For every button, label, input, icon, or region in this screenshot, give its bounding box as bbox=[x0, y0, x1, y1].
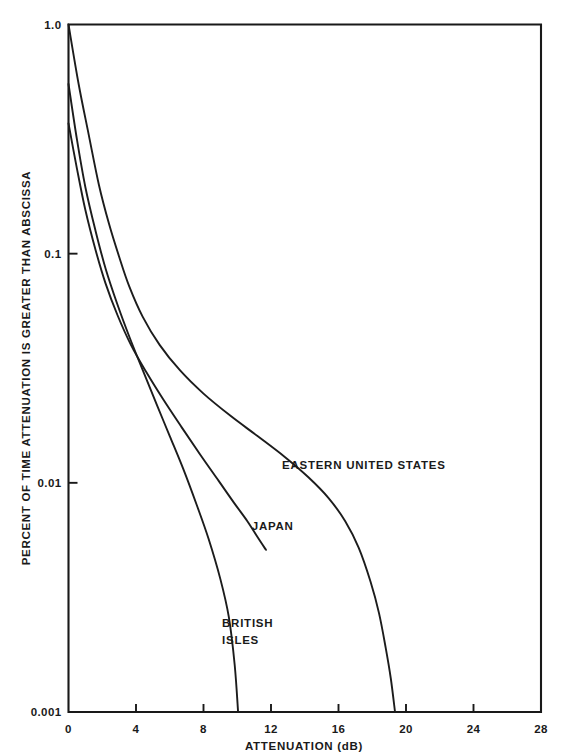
y-axis-title: PERCENT OF TIME ATTENUATION IS GREATER T… bbox=[20, 171, 32, 566]
x-tick-label: 0 bbox=[65, 723, 72, 735]
chart-figure: 0481216202428 1.00.10.010.001 EASTERN UN… bbox=[0, 0, 575, 756]
x-tick-label: 8 bbox=[200, 723, 207, 735]
x-tick-label: 12 bbox=[264, 723, 278, 735]
y-tick-label: 0.1 bbox=[44, 248, 61, 260]
x-tick-label: 24 bbox=[467, 723, 481, 735]
series-label-japan: JAPAN bbox=[252, 520, 294, 532]
attenuation-distribution-chart: 0481216202428 1.00.10.010.001 EASTERN UN… bbox=[0, 0, 575, 756]
y-tick-label: 1.0 bbox=[44, 19, 61, 31]
x-tick-label: 20 bbox=[399, 723, 413, 735]
series-label-eastern-united-states: EASTERN UNITED STATES bbox=[282, 459, 446, 471]
chart-background bbox=[0, 0, 575, 756]
x-tick-label: 28 bbox=[534, 723, 548, 735]
x-tick-label: 4 bbox=[133, 723, 140, 735]
y-tick-label: 0.001 bbox=[31, 706, 62, 718]
x-tick-label: 16 bbox=[332, 723, 346, 735]
y-tick-label: 0.01 bbox=[38, 477, 62, 489]
x-axis-title: ATTENUATION (dB) bbox=[245, 740, 363, 752]
